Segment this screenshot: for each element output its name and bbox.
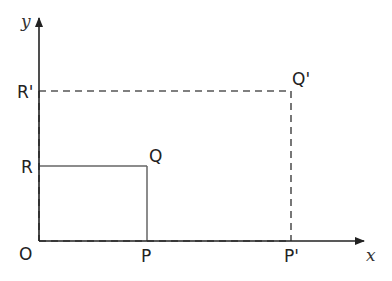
label-p-prime: P' xyxy=(284,246,299,266)
label-o: O xyxy=(19,244,32,264)
label-q: Q xyxy=(149,146,162,166)
solid-rectangle xyxy=(39,166,147,241)
label-p: P xyxy=(141,246,151,266)
diagram-canvas: y x R' R O P P' Q Q' xyxy=(0,0,392,281)
label-r: R xyxy=(21,157,33,177)
x-axis-label: x xyxy=(366,245,376,265)
label-q-prime: Q' xyxy=(292,69,310,89)
y-axis-label: y xyxy=(20,11,31,31)
label-r-prime: R' xyxy=(17,82,34,102)
